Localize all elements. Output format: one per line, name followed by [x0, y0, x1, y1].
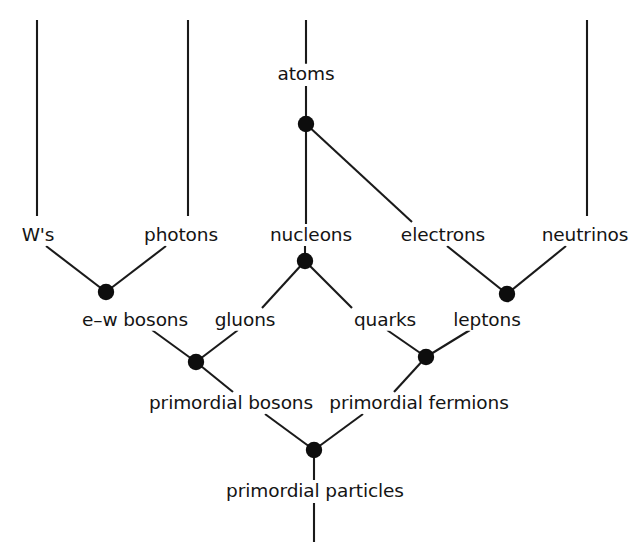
label-neutrinos: neutrinos	[538, 225, 633, 246]
edge-neutrinos-leptons	[507, 246, 566, 294]
edge-primfermions-to-particles	[314, 414, 363, 450]
leptons-node	[499, 286, 515, 302]
label-leptons: leptons	[449, 310, 525, 331]
label-ws: W's	[18, 225, 59, 246]
label-primordial-fermions: primordial fermions	[325, 393, 512, 414]
label-nucleons: nucleons	[266, 225, 356, 246]
nucleons-node	[297, 253, 313, 269]
primordial-fermions-node	[418, 349, 434, 365]
label-gluons: gluons	[211, 310, 280, 331]
edge-nucleons-quarks	[305, 261, 352, 308]
ew-bosons-node	[98, 284, 114, 300]
edge-nucleons-gluons	[262, 261, 305, 308]
edge-electrons-leptons	[447, 246, 507, 294]
label-ew-bosons: e–w bosons	[78, 310, 192, 331]
label-primordial-particles: primordial particles	[222, 481, 408, 502]
edge-ws-to-ewbosons	[46, 246, 106, 292]
primordial-bosons-node	[188, 354, 204, 370]
edges-group	[37, 20, 587, 542]
edge-atoms-electrons	[306, 124, 412, 222]
label-electrons: electrons	[397, 225, 489, 246]
label-quarks: quarks	[350, 310, 420, 331]
edge-primbosons-to-particles	[265, 414, 314, 450]
label-photons: photons	[140, 225, 222, 246]
edge-photons-to-ewbosons	[106, 246, 166, 292]
primordial-particles-node	[306, 442, 322, 458]
label-primordial-bosons: primordial bosons	[145, 393, 317, 414]
particle-hierarchy-diagram: atoms W's photons nucleons electrons neu…	[0, 0, 636, 559]
atoms-node	[298, 116, 314, 132]
label-atoms: atoms	[273, 64, 338, 85]
